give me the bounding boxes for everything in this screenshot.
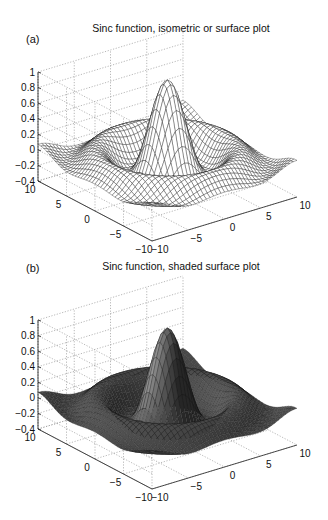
z-tick-label: 0.6 — [21, 346, 35, 357]
z-tick-label: 0.8 — [21, 330, 35, 341]
z-tick-label: 0.4 — [21, 113, 35, 124]
x-tick-label: −5 — [191, 481, 203, 492]
y-tick-label: −5 — [110, 229, 122, 240]
y-tick-label: −5 — [110, 477, 122, 488]
y-tick-label: 5 — [56, 447, 62, 458]
z-tick-label: 0.4 — [21, 361, 35, 372]
z-tick-label: −0.2 — [15, 160, 35, 171]
surface-plot-wireframe: −0.4−0.200.20.40.60.81−10−50510−10−50510 — [0, 0, 328, 260]
x-tick-label: −10 — [152, 492, 169, 503]
z-tick-label: 1 — [29, 67, 35, 78]
x-tick-label: −10 — [152, 244, 169, 255]
wireframe-surface — [38, 80, 297, 207]
y-tick-label: 5 — [56, 199, 62, 210]
x-tick-label: 10 — [299, 200, 311, 211]
shaded-surface — [38, 328, 297, 455]
z-tick-label: 1 — [29, 315, 35, 326]
z-tick-label: 0.8 — [21, 82, 35, 93]
z-tick-label: −0.2 — [15, 408, 35, 419]
x-tick-label: 10 — [299, 448, 311, 459]
x-tick-label: 0 — [230, 470, 236, 481]
y-tick-label: 0 — [84, 214, 90, 225]
panel-b-shaded-surface-plot: (b) Sinc function, shaded surface plot −… — [0, 260, 328, 520]
panel-a-surface-plot: (a) Sinc function, isometric or surface … — [0, 0, 328, 260]
x-tick-label: 5 — [266, 211, 272, 222]
y-tick-label: 10 — [24, 184, 36, 195]
x-tick-label: −5 — [191, 233, 203, 244]
z-tick-label: 0 — [29, 392, 35, 403]
y-tick-label: 0 — [84, 462, 90, 473]
z-tick-label: 0.2 — [21, 377, 35, 388]
surface-plot-shaded: −0.4−0.200.20.40.60.81−10−50510−10−50510 — [0, 260, 328, 520]
y-tick-label: 10 — [24, 432, 36, 443]
y-tick-label: −10 — [136, 244, 153, 255]
y-tick-label: −10 — [136, 492, 153, 503]
z-tick-label: 0.2 — [21, 129, 35, 140]
x-tick-label: 5 — [266, 459, 272, 470]
z-tick-label: 0.6 — [21, 98, 35, 109]
z-tick-label: 0 — [29, 144, 35, 155]
x-tick-label: 0 — [230, 222, 236, 233]
